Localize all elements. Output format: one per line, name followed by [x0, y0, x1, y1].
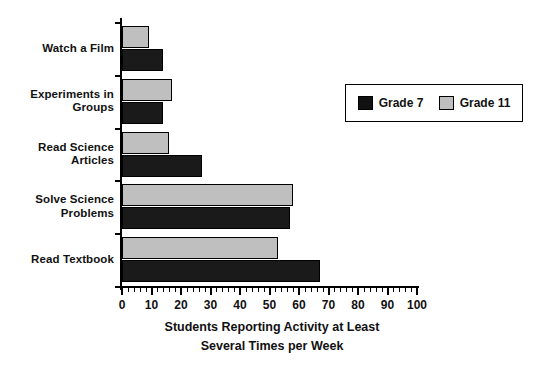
x-axis-tick-label: 30: [204, 298, 217, 312]
bar-grade-7: [122, 207, 290, 229]
x-axis-tick-label: 70: [322, 298, 335, 312]
category-label-line: Experiments in: [0, 88, 114, 102]
x-axis-minor-tick: [193, 288, 194, 292]
bar-grade-7: [122, 49, 163, 71]
x-axis-major-tick: [180, 288, 182, 295]
x-axis-minor-tick: [157, 288, 158, 292]
bar-grade-11: [122, 26, 149, 48]
x-axis-major-tick: [151, 288, 153, 295]
x-axis-minor-tick: [199, 288, 200, 292]
y-axis-tick: [115, 180, 122, 182]
x-axis-minor-tick: [352, 288, 353, 292]
x-axis-minor-tick: [169, 288, 170, 292]
x-axis-minor-tick: [163, 288, 164, 292]
x-axis-minor-tick: [370, 288, 371, 292]
x-axis-minor-tick: [346, 288, 347, 292]
x-axis-minor-tick: [405, 288, 406, 292]
legend-entry-grade-11: Grade 11: [439, 96, 511, 110]
legend-label-grade-7: Grade 7: [379, 96, 424, 110]
plot-area: 0102030405060708090100: [122, 22, 417, 286]
x-axis-major-tick: [387, 288, 389, 295]
bar-grade-7: [122, 155, 202, 177]
category-label: Solve ScienceProblems: [0, 193, 114, 220]
x-axis-minor-tick: [393, 288, 394, 292]
x-axis-minor-tick: [293, 288, 294, 292]
x-axis-tick-label: 10: [145, 298, 158, 312]
category-label-line: Problems: [0, 207, 114, 221]
y-axis-tick: [115, 128, 122, 130]
x-axis-minor-tick: [281, 288, 282, 292]
y-axis-tick: [115, 233, 122, 235]
x-axis-minor-tick: [287, 288, 288, 292]
bar-grade-11: [122, 132, 169, 154]
legend-swatch-grade-11: [439, 96, 454, 110]
x-axis-major-tick: [357, 288, 359, 295]
category-label-line: Groups: [0, 101, 114, 115]
x-axis-tick-label: 0: [119, 298, 126, 312]
x-axis-major-tick: [210, 288, 212, 295]
bar-chart: Watch a FilmExperiments inGroupsRead Sci…: [0, 0, 553, 377]
x-axis-major-tick: [269, 288, 271, 295]
x-axis-tick-label: 100: [407, 298, 427, 312]
x-axis-tick-label: 90: [381, 298, 394, 312]
bar-grade-11: [122, 184, 293, 206]
y-axis-tick: [115, 22, 122, 24]
category-label-line: Read Science: [0, 141, 114, 155]
bar-grade-11: [122, 79, 172, 101]
x-axis-minor-tick: [252, 288, 253, 292]
x-axis-minor-tick: [364, 288, 365, 292]
x-axis-tick-label: 50: [263, 298, 276, 312]
x-axis-minor-tick: [222, 288, 223, 292]
bar-grade-7: [122, 260, 320, 282]
x-axis-title-line-1: Students Reporting Activity at Least: [122, 318, 422, 337]
x-axis-minor-tick: [275, 288, 276, 292]
x-axis-tick-label: 80: [351, 298, 364, 312]
legend-label-grade-11: Grade 11: [460, 96, 511, 110]
x-axis-tick-label: 20: [174, 298, 187, 312]
x-axis-minor-tick: [311, 288, 312, 292]
category-label-line: Read Textbook: [0, 253, 114, 267]
x-axis-minor-tick: [216, 288, 217, 292]
bar-grade-7: [122, 102, 163, 124]
x-axis-minor-tick: [134, 288, 135, 292]
category-label-line: Solve Science: [0, 193, 114, 207]
category-label: Read Textbook: [0, 253, 114, 267]
x-axis-minor-tick: [234, 288, 235, 292]
x-axis-minor-tick: [140, 288, 141, 292]
x-axis-tick-label: 60: [292, 298, 305, 312]
x-axis-minor-tick: [411, 288, 412, 292]
x-axis-minor-tick: [305, 288, 306, 292]
x-axis-minor-tick: [399, 288, 400, 292]
x-axis-major-tick: [298, 288, 300, 295]
y-axis-tick: [115, 75, 122, 77]
x-axis-major-tick: [328, 288, 330, 295]
category-label-line: Watch a Film: [0, 42, 114, 56]
x-axis-minor-tick: [187, 288, 188, 292]
x-axis-minor-tick: [175, 288, 176, 292]
legend-swatch-grade-7: [358, 96, 373, 110]
x-axis-tick-label: 40: [233, 298, 246, 312]
x-axis-major-tick: [239, 288, 241, 295]
x-axis-minor-tick: [264, 288, 265, 292]
x-axis-minor-tick: [205, 288, 206, 292]
x-axis-minor-tick: [258, 288, 259, 292]
x-axis-minor-tick: [128, 288, 129, 292]
category-axis-labels: Watch a FilmExperiments inGroupsRead Sci…: [0, 22, 118, 286]
x-axis-minor-tick: [376, 288, 377, 292]
x-axis-minor-tick: [334, 288, 335, 292]
x-axis-major-tick: [416, 288, 418, 295]
x-axis-title-line-2: Several Times per Week: [122, 337, 422, 356]
x-axis-title: Students Reporting Activity at Least Sev…: [122, 318, 422, 356]
category-label: Experiments inGroups: [0, 88, 114, 115]
bar-grade-11: [122, 237, 278, 259]
x-axis-minor-tick: [228, 288, 229, 292]
category-label: Watch a Film: [0, 42, 114, 56]
x-axis-minor-tick: [340, 288, 341, 292]
x-axis-minor-tick: [246, 288, 247, 292]
x-axis-minor-tick: [382, 288, 383, 292]
legend-entry-grade-7: Grade 7: [358, 96, 424, 110]
x-axis-minor-tick: [146, 288, 147, 292]
category-label-line: Articles: [0, 154, 114, 168]
x-axis-major-tick: [121, 288, 123, 295]
chart-legend: Grade 7 Grade 11: [345, 84, 523, 122]
